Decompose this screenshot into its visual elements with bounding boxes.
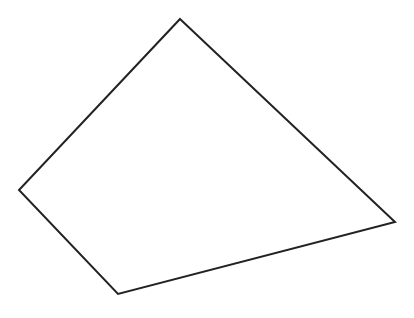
diagram-canvas xyxy=(0,0,414,318)
quadrilateral-shape xyxy=(19,19,395,294)
